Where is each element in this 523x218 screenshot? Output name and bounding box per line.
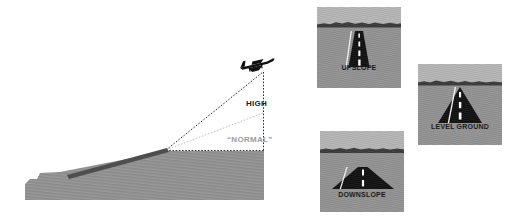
panel-label-level-ground: LEVEL GROUND xyxy=(418,123,502,130)
sky-band xyxy=(320,131,404,150)
label-high: HIGH xyxy=(246,99,267,108)
normal-glidepath-line xyxy=(166,113,263,150)
label-normal: “NORMAL” xyxy=(227,135,273,144)
panel-downslope: DOWNSLOPE xyxy=(320,131,404,212)
approach-angle-side-view: HIGH “NORMAL” xyxy=(0,0,300,218)
sky-band xyxy=(418,64,502,83)
panel-label-upslope: UPSLOPE xyxy=(317,64,401,71)
sky-band xyxy=(317,7,401,25)
airplane-icon xyxy=(239,54,277,74)
panel-label-downslope: DOWNSLOPE xyxy=(320,191,404,198)
panel-upslope: UPSLOPE xyxy=(317,7,401,88)
centerline-dashes xyxy=(459,92,462,120)
figure-canvas: HIGH “NORMAL” UPSLOPE xyxy=(0,0,523,218)
panel-level-ground: LEVEL GROUND xyxy=(418,64,502,145)
